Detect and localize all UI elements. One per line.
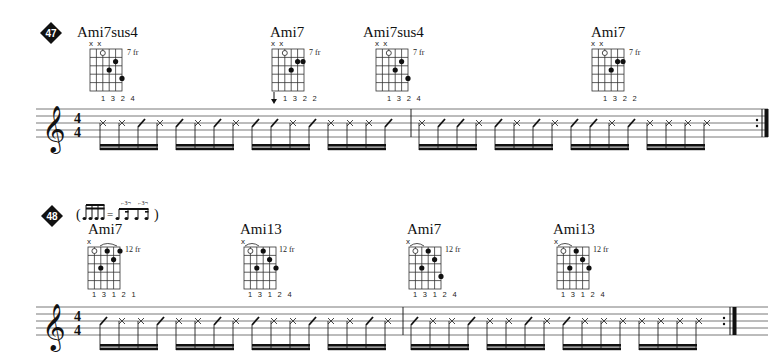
chord-name: Ami7 bbox=[591, 25, 625, 40]
svg-text:⌐3¬: ⌐3¬ bbox=[138, 200, 148, 206]
chord-name: Ami13 bbox=[240, 222, 282, 237]
treble-clef-icon: 𝄞 bbox=[42, 105, 66, 154]
fret-position: 12 fr bbox=[593, 246, 608, 254]
chord-name: Ami7 bbox=[88, 222, 122, 237]
chord-name: Ami7 bbox=[407, 222, 441, 237]
time-signature: 4 bbox=[74, 111, 81, 126]
notes bbox=[100, 119, 710, 150]
chord-diagram bbox=[271, 48, 307, 94]
fret-position: 7 fr bbox=[309, 49, 320, 57]
rhythm-staff: 𝄞 4 4 bbox=[0, 290, 775, 361]
muted-strings: x x bbox=[89, 40, 102, 48]
svg-text:⌐3¬: ⌐3¬ bbox=[121, 200, 131, 206]
chord-diagram bbox=[408, 240, 444, 292]
svg-text:4: 4 bbox=[74, 323, 81, 338]
chord-diagram bbox=[375, 48, 411, 94]
fret-position: 7 fr bbox=[127, 49, 138, 57]
chord-diagram bbox=[87, 240, 123, 292]
fret-position: 7 fr bbox=[413, 49, 424, 57]
fret-position: 12 fr bbox=[445, 246, 460, 254]
muted-strings: x x bbox=[591, 40, 604, 48]
exercise-number-badge: 48 bbox=[41, 205, 63, 227]
fret-position: 12 fr bbox=[279, 246, 294, 254]
notes bbox=[100, 317, 702, 350]
svg-text:=: = bbox=[107, 208, 113, 220]
chord-diagram bbox=[591, 48, 627, 94]
chord-diagram bbox=[556, 240, 592, 292]
svg-text:(: ( bbox=[76, 207, 81, 223]
chord-name: Ami7sus4 bbox=[363, 25, 424, 40]
exercise-number-badge: 47 bbox=[40, 22, 62, 44]
fret-position: 7 fr bbox=[629, 49, 640, 57]
treble-clef-icon: 𝄞 bbox=[42, 303, 66, 352]
rhythm-staff: 𝄞 4 4 bbox=[0, 100, 775, 160]
chord-diagram bbox=[89, 48, 125, 94]
svg-text:): ) bbox=[154, 207, 159, 223]
chord-name: Ami7 bbox=[270, 25, 304, 40]
chord-name: Ami13 bbox=[553, 222, 595, 237]
svg-text:4: 4 bbox=[74, 125, 81, 140]
muted-strings: x x bbox=[375, 40, 388, 48]
time-signature: 4 bbox=[74, 309, 81, 324]
chord-diagram bbox=[243, 240, 279, 292]
chord-name: Ami7sus4 bbox=[77, 25, 138, 40]
muted-strings: x x bbox=[271, 40, 284, 48]
fret-position: 12 fr bbox=[125, 246, 140, 254]
svg-text:48: 48 bbox=[46, 211, 58, 222]
svg-text:47: 47 bbox=[45, 28, 57, 39]
